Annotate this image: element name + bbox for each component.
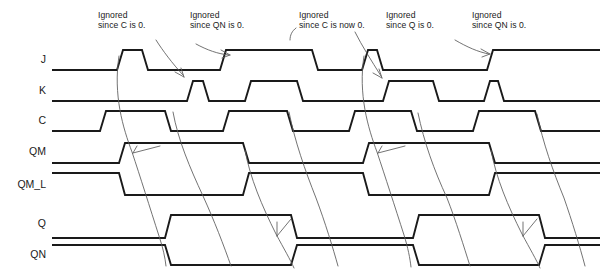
annotation-5-line-1: Ignored bbox=[472, 10, 526, 20]
causality-curve-6 bbox=[418, 113, 470, 266]
annotation-5-line-2: since QN is 0. bbox=[472, 20, 526, 30]
signal-label-qm: QM bbox=[29, 145, 46, 157]
annotation-5: Ignored since QN is 0. bbox=[472, 10, 526, 30]
causality-curve-7 bbox=[491, 150, 540, 268]
causality-curve-8 bbox=[537, 114, 585, 266]
annotation-1-line-1: Ignored bbox=[98, 10, 145, 20]
causality-leader-group bbox=[117, 56, 585, 268]
annotation-2-line-1: Ignored bbox=[190, 10, 244, 20]
signal-label-q: Q bbox=[38, 217, 46, 229]
signal-label-qm-l: QM_L bbox=[17, 178, 46, 190]
waveform-c bbox=[52, 111, 600, 131]
waveform-j bbox=[52, 50, 600, 70]
causality-arrowhead-3 bbox=[277, 219, 291, 236]
annotation-4-line-2: since Q is 0. bbox=[386, 20, 434, 30]
waveform-qm-l bbox=[52, 173, 600, 195]
causality-curve-1 bbox=[117, 56, 166, 266]
signal-label-j: J bbox=[41, 53, 46, 65]
signal-label-k: K bbox=[39, 84, 46, 96]
annotation-3-line-2: since C is now 0. bbox=[299, 20, 365, 30]
annotation-1-line-2: since C is 0. bbox=[98, 20, 145, 30]
causality-curve-3 bbox=[245, 150, 294, 268]
annotation-pointer-3 bbox=[290, 28, 296, 40]
annotation-1: Ignored since C is 0. bbox=[98, 10, 145, 30]
signal-label-group: J K C QM QM_L Q QN bbox=[17, 53, 46, 260]
signal-label-c: C bbox=[38, 114, 46, 126]
annotation-3-line-1: Ignored bbox=[299, 10, 365, 20]
causality-arrowhead-7 bbox=[523, 219, 537, 236]
annotation-pointer-5 bbox=[455, 40, 489, 54]
timing-diagram: J K C QM QM_L Q QN bbox=[0, 0, 604, 272]
causality-curve-2 bbox=[173, 112, 231, 266]
waveform-canvas: J K C QM QM_L Q QN bbox=[0, 0, 604, 272]
annotation-2-line-2: since QN is 0. bbox=[190, 20, 244, 30]
signal-label-qn: QN bbox=[30, 248, 46, 260]
waveform-qn bbox=[52, 245, 600, 265]
annotation-4-line-1: Ignored bbox=[386, 10, 434, 20]
annotation-2: Ignored since QN is 0. bbox=[190, 10, 244, 30]
annotation-4: Ignored since Q is 0. bbox=[386, 10, 434, 30]
causality-curve-4 bbox=[289, 112, 338, 266]
causality-arrowhead-5 bbox=[378, 146, 405, 153]
causality-arrowhead-1 bbox=[133, 146, 160, 153]
waveform-k bbox=[52, 81, 600, 101]
annotation-3: Ignored since C is now 0. bbox=[299, 10, 365, 30]
